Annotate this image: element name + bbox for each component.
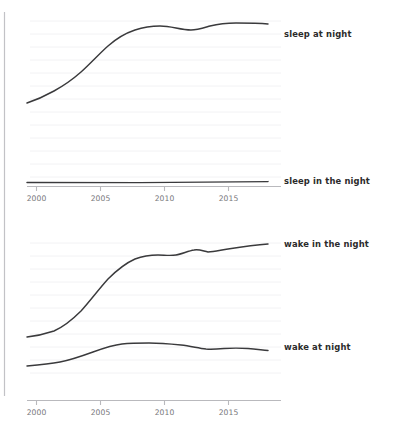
- top-x-tick-label-2005: 2005: [91, 194, 111, 203]
- sleep-wake-trend-chart: 2000 2005 2010 2015 sleep at night sleep…: [0, 0, 396, 442]
- bottom-x-tick-label-2010: 2010: [155, 408, 175, 417]
- series-label-wake-in-the-night: wake in the night: [284, 239, 369, 249]
- series-label-wake-at-night: wake at night: [284, 342, 351, 352]
- top-x-tick-label-2015: 2015: [219, 194, 239, 203]
- bottom-x-tick-label-2005: 2005: [91, 408, 111, 417]
- top-x-tick-label-2010: 2010: [155, 194, 175, 203]
- top-x-tick-label-2000: 2000: [27, 194, 47, 203]
- series-label-sleep-at-night: sleep at night: [284, 29, 352, 39]
- bottom-x-tick-label-2015: 2015: [219, 408, 239, 417]
- chart-background: [0, 0, 396, 442]
- bottom-x-tick-label-2000: 2000: [27, 408, 47, 417]
- series-label-sleep-in-the-night: sleep in the night: [284, 176, 370, 186]
